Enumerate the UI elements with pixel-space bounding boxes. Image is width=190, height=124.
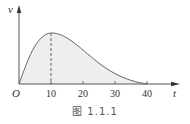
x-tick-label-30: 30 [110, 88, 120, 99]
x-axis-arrow-icon [171, 82, 180, 86]
origin-label: O [12, 87, 20, 99]
x-tick-label-40: 40 [142, 88, 152, 99]
x-tick-label-10: 10 [46, 88, 56, 99]
x-axis-label: t [173, 87, 177, 99]
figure-caption: 图 1.1.1 [0, 103, 190, 118]
y-axis-arrow-icon [17, 5, 21, 13]
figure: v O t 10 20 30 40 图 1.1.1 [0, 0, 190, 124]
y-axis-label: v [8, 3, 13, 15]
x-tick-label-20: 20 [78, 88, 88, 99]
